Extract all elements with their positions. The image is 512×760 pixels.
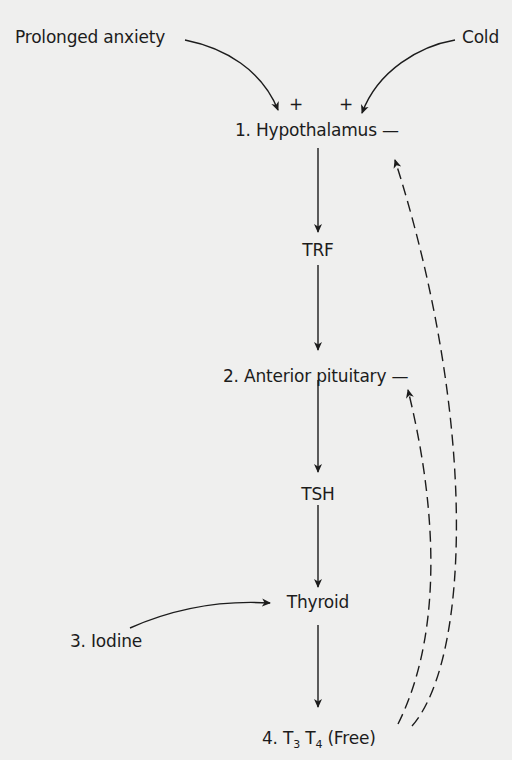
- plus-sign-cold: +: [339, 94, 353, 114]
- feedback-to-hypothalamus-dashed: [395, 160, 456, 726]
- cold-arrow: [362, 40, 455, 113]
- node-free-t3-t4: 4. T3 T4 (Free): [262, 728, 376, 748]
- node-iodine: 3. Iodine: [70, 631, 142, 651]
- plus-sign-anxiety: +: [289, 94, 303, 114]
- feedback-to-pituitary-dashed: [398, 390, 431, 724]
- stimulus-prolonged-anxiety: Prolonged anxiety: [15, 27, 165, 47]
- node-tsh: TSH: [301, 484, 334, 504]
- iodine-to-thyroid-arrow: [130, 602, 270, 628]
- node-thyroid: Thyroid: [287, 592, 349, 612]
- node-trf: TRF: [302, 240, 333, 260]
- anxiety-arrow: [185, 40, 278, 110]
- stimulus-cold: Cold: [462, 27, 499, 47]
- node-hypothalamus: 1. Hypothalamus —: [235, 120, 399, 140]
- node-anterior-pituitary: 2. Anterior pituitary —: [223, 366, 408, 386]
